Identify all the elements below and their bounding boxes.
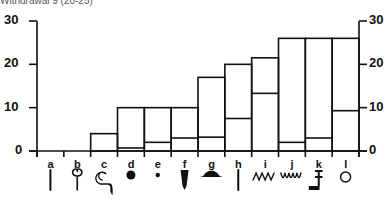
small-dot-icon (156, 173, 160, 177)
y-tick-label-left: 10 (4, 99, 18, 114)
category-label-a: a (37, 158, 64, 170)
bar-e (144, 108, 171, 151)
bar-i (252, 58, 279, 151)
bar-k (305, 38, 332, 151)
category-label-b: b (64, 158, 91, 170)
mound-icon (199, 171, 223, 178)
bar-j (279, 38, 306, 151)
wavy-line-icon (281, 173, 301, 178)
y-tick-label-left: 30 (4, 12, 18, 27)
category-label-d: d (118, 158, 145, 170)
bar-l (332, 38, 359, 151)
category-label-k: k (305, 158, 332, 170)
spiral-icon (96, 172, 112, 194)
category-label-c: c (91, 158, 118, 170)
bar-chart (0, 0, 391, 213)
y-tick-label-left: 0 (15, 142, 22, 157)
y-tick-label-right: 30 (369, 12, 383, 27)
filled-dot-icon (126, 171, 135, 180)
y-tick-label-right: 10 (369, 99, 383, 114)
bar-f (171, 108, 198, 151)
y-tick-label-left: 20 (4, 55, 18, 70)
open-circle-icon (341, 172, 351, 182)
y-tick-label-right: 0 (369, 142, 376, 157)
bar-h (225, 64, 252, 151)
bar-g (198, 77, 225, 151)
category-label-l: l (332, 158, 359, 170)
category-label-j: j (279, 158, 306, 170)
bar-d (118, 108, 145, 151)
t-hook-icon (310, 171, 322, 189)
wedge-icon (181, 170, 189, 190)
trefoil-icon (73, 169, 82, 190)
category-label-f: f (171, 158, 198, 170)
category-label-h: h (225, 158, 252, 170)
bar-c (91, 134, 118, 151)
y-tick-label-right: 20 (369, 55, 383, 70)
category-label-e: e (144, 158, 171, 170)
category-label-g: g (198, 158, 225, 170)
zigzag-icon (253, 173, 274, 180)
category-label-i: i (252, 158, 279, 170)
